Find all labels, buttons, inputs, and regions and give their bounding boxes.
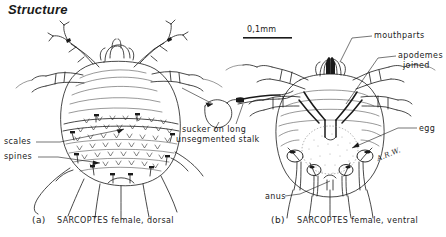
label-apodemes: apodemes — [398, 52, 443, 60]
label-spines: spines — [4, 153, 32, 161]
label-apodemes-joined: joined — [403, 62, 430, 70]
caption-a-text: SARCOPTES female, dorsal — [57, 217, 174, 225]
svg-text:A.R.W.: A.R.W. — [375, 146, 402, 163]
label-mouthparts: mouthparts — [374, 32, 425, 40]
dorsal-leg-1-right — [134, 20, 188, 67]
label-leader-lines — [36, 36, 417, 196]
caption-b-tag: (b) — [271, 216, 285, 225]
caption-b-text: SARCOPTES female, ventral — [297, 217, 418, 225]
caption-a-tag: (a) — [32, 216, 46, 225]
dorsal-leg-1-left — [48, 21, 99, 67]
ventral-leg-2-right — [361, 96, 412, 116]
dorsal-spines — [70, 113, 175, 183]
label-anus: anus — [265, 193, 286, 201]
label-egg: egg — [419, 125, 435, 133]
ventral-posterior-legs — [287, 148, 373, 218]
label-sucker-line1: sucker on long — [182, 126, 246, 134]
label-sucker-line2: unsegmented stalk — [176, 136, 260, 144]
ventral-leg-1-left — [226, 65, 308, 89]
scale-bar — [243, 37, 292, 39]
artist-signature: A.R.W. — [375, 146, 402, 163]
scale-bar-label: 0,1mm — [247, 26, 276, 34]
label-scales: scales — [4, 138, 31, 146]
dorsal-mouthparts — [100, 39, 134, 61]
dorsal-mite-drawing — [16, 20, 222, 218]
